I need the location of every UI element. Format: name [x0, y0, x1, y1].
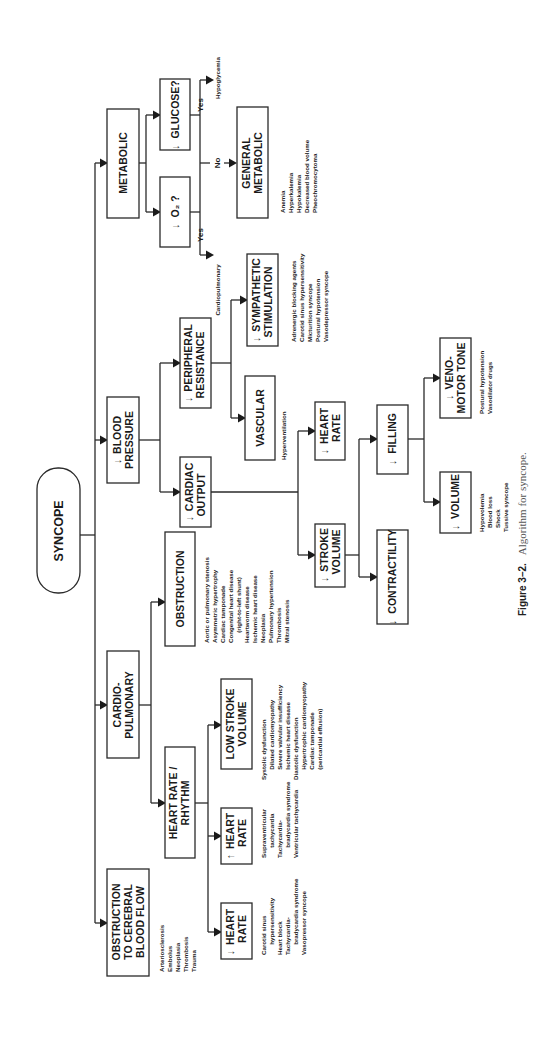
svg-text:GENERAL: GENERAL	[240, 137, 252, 189]
root-node-syncope: SYNCOPE	[37, 468, 80, 593]
svg-text:↑ HEART: ↑ HEART	[224, 812, 236, 859]
node-filling: ↓ FILLING	[377, 405, 408, 474]
svg-text:RATE: RATE	[236, 819, 248, 847]
down-arrow-icon: ↓	[318, 577, 330, 582]
svg-text:Supraventricular: Supraventricular	[260, 808, 267, 858]
svg-text:Shock: Shock	[494, 509, 501, 528]
node-co-heart-rate: ↓ HEART RATE	[315, 402, 345, 460]
svg-text:Tussive syncope: Tussive syncope	[502, 482, 509, 532]
svg-text:METABOLIC: METABOLIC	[252, 132, 264, 194]
svg-text:Pulmonary hypertension: Pulmonary hypertension	[267, 570, 274, 643]
svg-text:↓ CONTRACTILITY: ↓ CONTRACTILITY	[386, 529, 398, 625]
svg-text:Postural hypotension: Postural hypotension	[478, 351, 485, 414]
svg-text:Ischemic heart disease: Ischemic heart disease	[284, 702, 291, 775]
venomotor-tone-causes: Postural hypotension Vasodilator drugs	[478, 351, 493, 414]
figure-caption: Figure 3–2. Algorithm for syncope.	[512, 452, 529, 616]
svg-text:RATE: RATE	[236, 915, 248, 943]
node-volume: ↓ VOLUME	[440, 472, 471, 533]
svg-text:CARDIO-: CARDIO-	[111, 682, 123, 727]
cardiopulmonary-result: Cardiopulmonary	[214, 264, 221, 316]
svg-text:OBSTRUCTION: OBSTRUCTION	[110, 884, 122, 961]
down-arrow-icon: ↓	[182, 397, 194, 402]
root-label: SYNCOPE	[52, 500, 66, 561]
svg-text:Heart block: Heart block	[276, 921, 283, 955]
o2-yes-label: Yes	[196, 228, 205, 242]
metabolic-label: METABOLIC	[117, 132, 129, 194]
svg-text:MOTOR TONE: MOTOR TONE	[455, 343, 467, 414]
svg-text:Cardiac tamponade: Cardiac tamponade	[219, 585, 226, 643]
down-arrow-icon: ↓	[224, 950, 236, 955]
svg-text:Decreased blood volume: Decreased blood volume	[303, 139, 310, 213]
node-high-heart-rate: ↑ HEART RATE	[221, 808, 252, 864]
svg-text:Hyperkalemia: Hyperkalemia	[287, 172, 294, 213]
svg-text:RATE: RATE	[330, 414, 342, 442]
low-stroke-volume-causes: Systolic dysfunction Dilated cardiomyopa…	[260, 681, 323, 780]
down-arrow-icon: ↓	[169, 145, 181, 150]
svg-text:Congenital heart disease: Congenital heart disease	[227, 569, 234, 643]
vascular-cause: Hyperventilation	[280, 411, 287, 460]
svg-text:Heartworm disease: Heartworm disease	[243, 586, 250, 643]
svg-text:RHYTHM: RHYTHM	[179, 780, 191, 825]
svg-text:↓ BLOOD: ↓ BLOOD	[111, 416, 123, 465]
svg-text:Vasodilator drugs: Vasodilator drugs	[486, 361, 493, 414]
caption-label: Figure 3–2.	[517, 563, 528, 616]
svg-text:Embolus: Embolus	[166, 945, 173, 972]
svg-text:(pericardial effusion): (pericardial effusion)	[316, 709, 323, 775]
node-venomotor-tone: ↓ VENO- MOTOR TONE	[440, 338, 471, 418]
svg-text:tachycardia: tachycardia	[268, 813, 275, 853]
node-cerebral-obstruction: OBSTRUCTION TO CEREBRAL BLOOD FLOW	[107, 869, 149, 976]
caption-text: Algorithm for syncope.	[516, 452, 528, 555]
svg-text:OUTPUT: OUTPUT	[195, 473, 207, 517]
down-arrow-icon: ↓	[169, 223, 181, 228]
svg-text:Tachycardia-: Tachycardia-	[284, 917, 291, 955]
svg-text:↓ FILLING: ↓ FILLING	[386, 413, 398, 465]
glucose-label: GLUCOSE?	[169, 80, 181, 138]
node-low-glucose: ↓ GLUCOSE?	[160, 79, 190, 150]
svg-text:Thrombosis: Thrombosis	[275, 607, 282, 643]
svg-text:Neoplasia: Neoplasia	[259, 613, 266, 643]
svg-text:Hypovolemia: Hypovolemia	[478, 493, 485, 532]
svg-text:Carotid sinus: Carotid sinus	[260, 915, 267, 955]
glucose-yes-label: Yes	[196, 98, 205, 112]
svg-text:Diastolic dysfunction: Diastolic dysfunction	[292, 717, 299, 780]
down-arrow-icon: ↓	[250, 337, 262, 342]
arrowheads	[100, 76, 441, 937]
svg-text:Cardiac tamponade: Cardiac tamponade	[308, 712, 315, 775]
down-arrow-icon: ↓	[386, 620, 398, 625]
svg-text:Hypertrophic cardiomyopathy: Hypertrophic cardiomyopathy	[300, 681, 307, 775]
low-heart-rate-causes: Carotid sinus hypersensitivity Heart blo…	[260, 878, 307, 955]
svg-text:Asymmetric hypertrophy: Asymmetric hypertrophy	[211, 569, 218, 643]
svg-text:Tachycardia-: Tachycardia-	[276, 820, 283, 858]
svg-text:↓ GLUCOSE?: ↓ GLUCOSE?	[169, 80, 181, 150]
svg-text:Carotid sinus hypersensitivity: Carotid sinus hypersensitivity	[298, 253, 305, 342]
svg-text:VOLUME: VOLUME	[330, 530, 342, 575]
no-branch-label: No	[213, 158, 222, 169]
svg-text:VASCULAR: VASCULAR	[254, 389, 266, 447]
volume-causes: Hypovolemia Blood loss Shock Tussive syn…	[478, 482, 509, 532]
node-metabolic: METABOLIC	[107, 109, 139, 218]
node-heart-rate-rhythm: HEART RATE / RHYTHM	[165, 747, 195, 858]
svg-text:↓ SYMPATHETIC: ↓ SYMPATHETIC	[250, 258, 262, 342]
svg-text:Thrombosis: Thrombosis	[182, 936, 189, 972]
general-metabolic-causes: Anemia Hyperkalemia Hypokalemia Decrease…	[279, 139, 318, 213]
node-low-heart-rate: ↓ HEART RATE	[221, 903, 252, 959]
svg-text:↓ VENO-: ↓ VENO-	[443, 356, 455, 400]
svg-text:PULMONARY: PULMONARY	[123, 671, 135, 738]
svg-text:Trauma: Trauma	[190, 949, 197, 972]
svg-text:Hypokalemia: Hypokalemia	[295, 174, 302, 213]
svg-text:BLOOD FLOW: BLOOD FLOW	[134, 886, 146, 958]
node-general-metabolic: GENERAL METABOLIC	[237, 107, 268, 218]
svg-text:hypersensitivity: hypersensitivity	[268, 897, 275, 950]
svg-text:Vasodepressor syncope: Vasodepressor syncope	[322, 270, 329, 342]
node-cardiopulmonary: CARDIO- PULMONARY	[107, 651, 139, 758]
syncope-flowchart: SYNCOPE METABOLIC ↓ O₂ ? ↓ GLUCOSE? Yes …	[0, 0, 545, 1037]
svg-text:bradycardia syndrome: bradycardia syndrome	[292, 878, 299, 950]
svg-text:VOLUME: VOLUME	[236, 702, 248, 747]
svg-text:RESISTANCE: RESISTANCE	[194, 332, 206, 399]
svg-text:↓ STROKE: ↓ STROKE	[318, 528, 330, 582]
svg-text:Adrenergic blocking agents: Adrenergic blocking agents	[290, 260, 297, 342]
high-heart-rate-causes: Supraventricular tachycardia Tachycardia…	[260, 781, 299, 858]
node-vascular: VASCULAR	[245, 376, 275, 460]
up-arrow-icon: ↑	[224, 854, 236, 859]
node-low-stroke-volume: LOW STROKE VOLUME	[221, 679, 252, 769]
